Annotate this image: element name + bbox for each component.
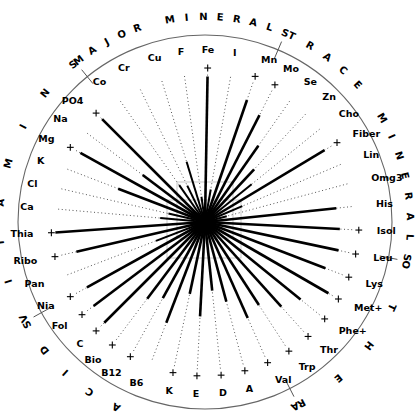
nutrient-label-I: I bbox=[233, 47, 237, 58]
nutrient-label-B6: B6 bbox=[130, 377, 144, 388]
nutrient-label-Cl: Cl bbox=[27, 178, 37, 189]
nutrient-label-Thia: Thia bbox=[10, 228, 33, 239]
nutrient-label-Mn: Mn bbox=[261, 54, 277, 65]
nutrient-label-Bio: Bio bbox=[84, 354, 101, 365]
nutrient-label-C: C bbox=[76, 338, 83, 349]
nutrient-label-B12: B12 bbox=[101, 367, 121, 378]
nutrient-label-Cho: Cho bbox=[339, 108, 360, 119]
nutrient-label-PO4: PO4 bbox=[62, 95, 84, 106]
nutrient-label-Ribo: Ribo bbox=[14, 255, 38, 266]
nutrient-label-Met+: Met+ bbox=[354, 302, 382, 313]
group-label-letter: E bbox=[216, 11, 224, 22]
nutrient-label-Lys: Lys bbox=[366, 278, 384, 289]
group-label-letter: N bbox=[199, 11, 207, 22]
nutrient-label-Val: Val bbox=[275, 374, 292, 385]
nutrient-label-Fol: Fol bbox=[52, 320, 68, 331]
nutrient-label-Mo: Mo bbox=[283, 63, 299, 74]
nutrient-label-Ca: Ca bbox=[20, 201, 33, 212]
nutrient-radial-chart: CaClKMgNaPO4CoCrCuFFeIMnMoSeZnChoFiberLi… bbox=[0, 0, 415, 413]
nutrient-label-Thr: Thr bbox=[320, 344, 338, 355]
nutrient-label-Cr: Cr bbox=[118, 62, 130, 73]
nutrient-label-Fiber: Fiber bbox=[352, 128, 380, 139]
nutrient-label-Cu: Cu bbox=[148, 52, 162, 63]
nutrient-label-Leu: Leu bbox=[373, 252, 392, 263]
nutrient-label-Lin: Lin bbox=[363, 149, 379, 160]
nutrient-label-K: K bbox=[37, 155, 45, 166]
group-label-letter: A bbox=[0, 198, 6, 207]
nutrient-label-Se: Se bbox=[304, 76, 317, 87]
nutrient-label-K: K bbox=[166, 385, 174, 396]
radial-chart-canvas: CaClKMgNaPO4CoCrCuFFeIMnMoSeZnChoFiberLi… bbox=[0, 0, 415, 413]
nutrient-label-Nia: Nia bbox=[37, 300, 55, 311]
nutrient-label-A: A bbox=[246, 383, 254, 394]
group-label-letter: T bbox=[0, 238, 6, 246]
nutrient-label-Phe+: Phe+ bbox=[339, 325, 367, 336]
nutrient-label-Isol: Isol bbox=[377, 225, 396, 236]
nutrient-label-D: D bbox=[219, 387, 227, 398]
nutrient-label-Pan: Pan bbox=[25, 278, 45, 289]
nutrient-label-His: His bbox=[376, 198, 393, 209]
nutrient-label-Fe: Fe bbox=[202, 44, 215, 55]
nutrient-label-Trp: Trp bbox=[299, 361, 316, 372]
nutrient-label-Omg3: Omg3 bbox=[371, 172, 402, 183]
nutrient-label-E: E bbox=[193, 388, 200, 399]
nutrient-label-Mg: Mg bbox=[38, 133, 54, 144]
nutrient-label-Zn: Zn bbox=[322, 91, 336, 102]
group-label-letter: A bbox=[405, 212, 415, 220]
group-label-letter: M bbox=[164, 13, 176, 26]
nutrient-label-Co: Co bbox=[93, 76, 107, 87]
nutrient-label-F: F bbox=[178, 46, 185, 57]
nutrient-label-Na: Na bbox=[53, 113, 67, 124]
